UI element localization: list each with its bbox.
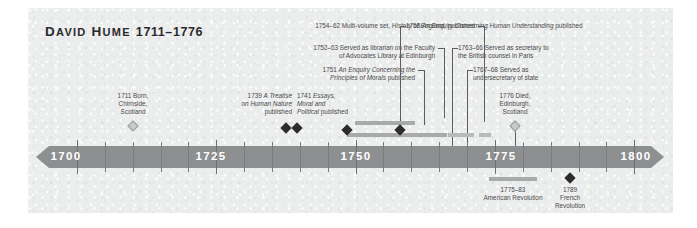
title-ume: UME bbox=[103, 26, 131, 38]
title-initial-d: D bbox=[45, 24, 56, 39]
annotation-line: 1751 An Enquiry Concerning the bbox=[195, 66, 415, 74]
annotation-line: Principles of Morals published bbox=[195, 74, 415, 82]
annotation-line: 1763–66 Served as secretary to bbox=[458, 44, 549, 52]
page-title: DAVID HUME 1711–1776 bbox=[45, 24, 203, 39]
annotation-line: 1711 Born, bbox=[98, 92, 168, 100]
connector-line-librarian bbox=[444, 48, 445, 118]
annotation-undersecretary: 1767–68 Served as undersecretary of stat… bbox=[473, 66, 538, 82]
annotation-line: French bbox=[555, 194, 585, 202]
axis-arrow-left-icon bbox=[36, 146, 49, 168]
connector-line-enquiry-understanding bbox=[400, 26, 401, 130]
annotation-american-revolution: 1775–83 American Revolution bbox=[484, 186, 543, 202]
axis-tick-minor-1740 bbox=[300, 142, 301, 172]
annotation-line: Moral and bbox=[297, 100, 348, 108]
annotation-line: Political published bbox=[297, 108, 348, 116]
axis-label-1700: 1700 bbox=[50, 150, 81, 162]
title-avid: AVID bbox=[56, 26, 87, 38]
annotation-line: 1775–83 bbox=[484, 186, 543, 194]
annotation-french-revolution: 1789 French Revolution bbox=[555, 186, 585, 211]
axis-label-1775: 1775 bbox=[485, 150, 516, 162]
annotation-line: 1758 An Enquiry Concerning Human Underst… bbox=[406, 22, 583, 30]
annotation-line: 1741 Essays, bbox=[297, 92, 348, 100]
axis-tick-minor-1715 bbox=[161, 142, 162, 172]
annotation-line: 1752–63 Served as librarian on the Facul… bbox=[190, 44, 435, 52]
annotation-died: 1776 Died, Edinburgh, Scotland bbox=[484, 92, 546, 117]
axis-label-1750: 1750 bbox=[340, 150, 371, 162]
axis-tick-minor-1780 bbox=[523, 142, 524, 172]
annotation-line: Edinburgh, bbox=[484, 100, 546, 108]
axis-tick-minor-1705 bbox=[105, 142, 106, 172]
annotation-line: the British counsel in Paris bbox=[458, 52, 549, 60]
annotation-line: on Human Nature bbox=[224, 100, 292, 108]
annotation-line: American Revolution bbox=[484, 194, 543, 202]
connector-line-history-england bbox=[484, 26, 485, 122]
annotation-librarian: 1752–63 Served as librarian on the Facul… bbox=[190, 44, 435, 60]
annotation-essays: 1741 Essays, Moral and Political publish… bbox=[297, 92, 348, 117]
annotation-line: 1789 bbox=[555, 186, 585, 194]
connector-line-enquiry-morals bbox=[424, 70, 425, 125]
axis-tick-minor-1745 bbox=[328, 142, 329, 172]
axis-tick-minor-1755 bbox=[383, 142, 384, 172]
axis-tick-minor-1730 bbox=[244, 142, 245, 172]
span-bar-secretary-paris bbox=[448, 133, 474, 137]
axis-tick-minor-1760 bbox=[411, 142, 412, 172]
annotation-line: undersecretary of state bbox=[473, 74, 538, 82]
annotation-line: Chirnside, bbox=[98, 100, 168, 108]
annotation-line: 1767–68 Served as bbox=[473, 66, 538, 74]
span-bar-history-england bbox=[355, 121, 415, 125]
title-years: 1711–1776 bbox=[136, 25, 203, 39]
annotation-line: published bbox=[224, 108, 292, 116]
annotation-secretary-paris: 1763–66 Served as secretary to the Briti… bbox=[458, 44, 549, 60]
annotation-line: 1739 A Treatise bbox=[224, 92, 292, 100]
annotation-enquiry-understanding: 1758 An Enquiry Concerning Human Underst… bbox=[406, 22, 583, 30]
axis-label-1725: 1725 bbox=[195, 150, 226, 162]
annotation-treatise: 1739 A Treatise on Human Nature publishe… bbox=[224, 92, 292, 117]
annotation-line: Revolution bbox=[555, 202, 585, 210]
axis-tick-minor-1785 bbox=[551, 142, 552, 172]
axis-tick-minor-1765 bbox=[439, 142, 440, 172]
axis-tick-minor-1790 bbox=[579, 142, 580, 172]
axis-tick-minor-1770 bbox=[467, 142, 468, 172]
axis-tick-minor-1720 bbox=[188, 142, 189, 172]
timeline-figure: DAVID HUME 1711–1776 1754–62 Multi-volum… bbox=[0, 0, 697, 228]
annotation-enquiry-morals: 1751 An Enquiry Concerning the Principle… bbox=[195, 66, 415, 82]
timeline-axis: 1700 1725 1750 1775 1800 bbox=[36, 146, 664, 168]
annotation-line: of Advocates Library at Edinburgh bbox=[190, 52, 435, 60]
axis-arrow-right-icon bbox=[651, 146, 664, 168]
annotation-line: 1776 Died, bbox=[484, 92, 546, 100]
annotation-line: Scotland bbox=[98, 108, 168, 116]
axis-label-1800: 1800 bbox=[620, 150, 651, 162]
annotation-born: 1711 Born, Chirnside, Scotland bbox=[98, 92, 168, 117]
axis-tick-minor-1710 bbox=[133, 142, 134, 172]
span-bar-american-revolution bbox=[489, 177, 537, 181]
axis-tick-minor-1735 bbox=[272, 142, 273, 172]
title-initial-h: H bbox=[92, 24, 103, 39]
axis-tick-minor-1795 bbox=[606, 142, 607, 172]
annotation-line: Scotland bbox=[484, 108, 546, 116]
span-bar-undersecretary bbox=[479, 133, 491, 137]
